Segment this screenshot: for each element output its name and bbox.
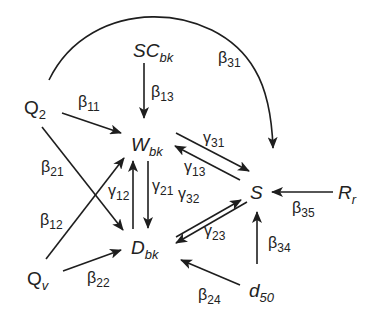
label-b12: β12 [40, 211, 63, 232]
label-b24: β24 [198, 286, 221, 307]
label-b34: β34 [268, 234, 291, 255]
node-q2: Q2 [24, 97, 46, 122]
node-dbk: Dbk [131, 237, 160, 262]
edge-b11 [62, 113, 121, 133]
causal-diagram: Q2 SCbk Wbk Dbk S Rr Qv d50 β11 β13 [0, 0, 370, 322]
label-b31: β31 [218, 49, 241, 70]
node-qv: Qv [27, 268, 50, 293]
label-g31: γ31 [203, 129, 225, 150]
label-b21: β21 [41, 158, 64, 179]
node-scbk: SCbk [133, 40, 175, 65]
node-rr: Rr [338, 182, 357, 207]
label-g32: γ32 [178, 185, 200, 206]
label-b22: β22 [87, 269, 110, 290]
edge-b24 [181, 260, 240, 285]
edge-b22 [63, 250, 121, 271]
label-b13: β13 [151, 83, 174, 104]
label-b11: β11 [78, 93, 100, 114]
node-d50: d50 [249, 280, 275, 305]
node-s: S [250, 182, 263, 203]
label-b35: β35 [292, 199, 315, 220]
label-g12: γ12 [108, 182, 130, 203]
node-wbk: Wbk [131, 134, 164, 159]
edge-b31 [49, 17, 273, 148]
label-g23: γ23 [204, 222, 226, 243]
label-g21: γ21 [152, 177, 174, 198]
